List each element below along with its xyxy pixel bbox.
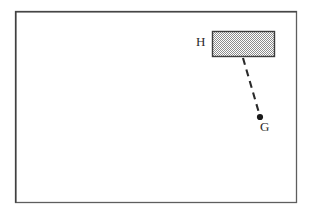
figure-canvas: H G	[0, 0, 311, 216]
shaded-rectangle-H	[213, 32, 275, 57]
label-g: G	[260, 120, 269, 133]
label-h: H	[196, 35, 205, 48]
figure-drawing	[0, 0, 311, 216]
